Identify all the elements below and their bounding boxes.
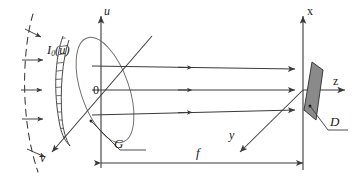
v-axis-label: v — [40, 151, 45, 166]
wavefront-arrows — [21, 29, 45, 157]
z-axis-label: z — [333, 74, 338, 89]
y-axis-label: y — [229, 128, 234, 143]
detector-label: D — [330, 114, 339, 130]
detector-plate — [304, 62, 348, 130]
detector-leader-line — [310, 106, 328, 130]
diagram-canvas — [0, 0, 355, 180]
wavefront-arc — [25, 14, 38, 172]
detector-coordinate-system — [240, 16, 345, 170]
incident-wavefront — [21, 14, 45, 172]
origin-label: 0 — [93, 83, 99, 98]
focal-length-label: f — [196, 145, 200, 161]
grating-label: G — [114, 136, 123, 152]
ray-bundle — [92, 66, 295, 115]
optical-diagram-figure: I0(u) u v 0 G x y z D f — [0, 0, 355, 180]
u-axis-label: u — [104, 4, 110, 19]
y-axis — [240, 90, 303, 152]
ray-midpoint-arrows — [178, 67, 190, 112]
incident-field-label: I0(u) — [47, 43, 70, 58]
x-axis-label: x — [307, 4, 313, 19]
ray-lower — [92, 110, 295, 115]
